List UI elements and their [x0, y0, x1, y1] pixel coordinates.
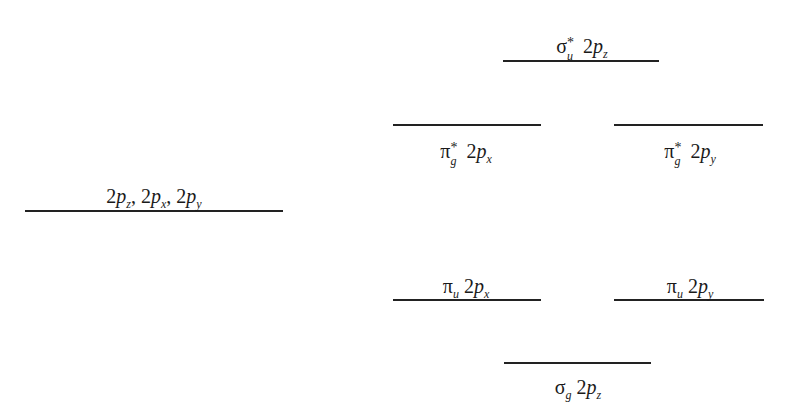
- orbital-p: p: [474, 275, 484, 297]
- mo-level-pi-g-star-2px: [393, 124, 541, 126]
- parity-sub: g: [674, 155, 680, 167]
- parity-sub: u: [453, 287, 459, 301]
- mo-label-sigma-u-star-2pz: σ*u 2pz: [556, 36, 607, 56]
- ao-p-2: p: [151, 185, 161, 207]
- ao-num-1: 2: [106, 185, 116, 207]
- orbital-num: 2: [577, 376, 587, 398]
- mo-label-pi-u-2px: πu 2px: [443, 276, 489, 296]
- mo-level-sigma-u-star-2pz: [503, 60, 659, 62]
- ao-num-2: 2: [141, 185, 151, 207]
- orbital-sub: y: [708, 287, 713, 301]
- parity-sub: g: [450, 155, 456, 167]
- orbital-p: p: [587, 376, 597, 398]
- orbital-num: 2: [688, 275, 698, 297]
- mo-label-pi-g-star-2py: π*g 2py: [664, 141, 715, 161]
- ao-p-3: p: [186, 185, 196, 207]
- orbital-p: p: [698, 275, 708, 297]
- mo-level-pi-g-star-2py: [614, 124, 763, 126]
- pi-symbol: π: [440, 140, 450, 162]
- antibonding-star: *: [674, 141, 681, 155]
- mo-level-pi-u-2py: [614, 299, 764, 301]
- orbital-p: p: [593, 35, 603, 57]
- parity-sub: u: [677, 287, 683, 301]
- mo-label-sigma-g-2pz: σg 2pz: [555, 377, 601, 397]
- orbital-num: 2: [583, 35, 593, 57]
- pi-symbol: π: [443, 275, 453, 297]
- sigma-symbol: σ: [555, 376, 566, 398]
- orbital-p: p: [700, 140, 710, 162]
- ao-sep-1: ,: [131, 185, 141, 207]
- mo-label-pi-u-2py: πu 2py: [667, 276, 713, 296]
- orbital-sub: z: [603, 47, 608, 61]
- ao-p-1: p: [116, 185, 126, 207]
- ao-sep-2: ,: [166, 185, 176, 207]
- pi-symbol: π: [664, 140, 674, 162]
- ao-num-3: 2: [176, 185, 186, 207]
- pi-symbol: π: [667, 275, 677, 297]
- mo-diagram: 2pz, 2px, 2py σ*u 2pz π*g 2px π*g 2py πu…: [0, 0, 796, 410]
- orbital-p: p: [476, 140, 486, 162]
- orbital-sub: y: [710, 152, 715, 166]
- mo-level-pi-u-2px: [393, 299, 541, 301]
- parity-sub: u: [567, 50, 573, 62]
- mo-label-pi-g-star-2px: π*g 2px: [440, 141, 491, 161]
- antibonding-star: *: [450, 141, 457, 155]
- orbital-num: 2: [464, 275, 474, 297]
- orbital-num: 2: [466, 140, 476, 162]
- orbital-sub: x: [484, 287, 489, 301]
- atomic-orbital-label-2p: 2pz, 2px, 2py: [106, 186, 201, 206]
- sigma-symbol: σ: [556, 35, 567, 57]
- parity-sub: g: [566, 388, 572, 402]
- orbital-sub: z: [597, 388, 602, 402]
- mo-level-sigma-g-2pz: [504, 362, 651, 364]
- atomic-orbital-level-2p: [25, 210, 283, 212]
- ao-sub-3: y: [196, 197, 201, 211]
- orbital-num: 2: [690, 140, 700, 162]
- antibonding-star: *: [567, 36, 574, 50]
- orbital-sub: x: [486, 152, 491, 166]
